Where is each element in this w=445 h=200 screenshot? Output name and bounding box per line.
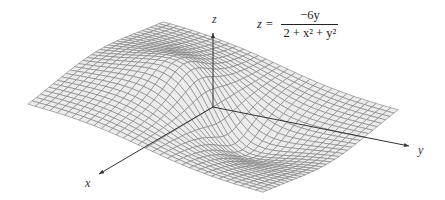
- equation: z = −6y 2 + x² + y²: [257, 8, 338, 41]
- x-axis-label: x: [85, 176, 90, 191]
- surface-plot: [0, 0, 445, 200]
- z-axis-arrow-icon: [211, 33, 215, 38]
- equation-numerator: −6y: [298, 8, 322, 24]
- x-axis-arrow-icon: [99, 170, 104, 174]
- y-axis-label: y: [418, 143, 423, 158]
- equation-denominator: 2 + x² + y²: [281, 24, 338, 41]
- z-axis-label: z: [212, 12, 217, 27]
- equation-lhs: z =: [257, 17, 273, 32]
- equation-fraction: −6y 2 + x² + y²: [281, 8, 338, 41]
- y-axis-arrow-icon: [404, 143, 409, 147]
